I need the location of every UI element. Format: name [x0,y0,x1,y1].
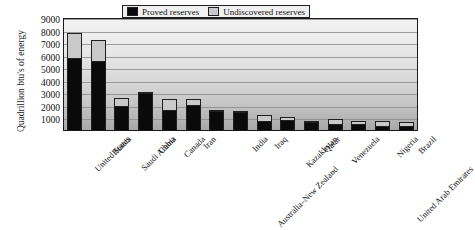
bar-iraq[interactable] [257,19,272,130]
chart-legend: Proved reserves Undiscovered reserves [122,5,310,18]
y-tick-6000: 6000 [41,54,60,62]
bar-segment-proved [280,120,295,130]
y-tick-4000: 4000 [41,79,60,87]
y-tick-7000: 7000 [41,41,60,49]
x-label-iraq: Iraq [272,134,289,151]
x-label-united-arab-emirates: United Arab Emirates [415,164,475,224]
x-label-nigeria: Nigeria [394,134,419,159]
x-axis-tick-labels: United StatesRussiaSaudi ArabiaChinaCana… [63,132,418,228]
bar-segment-proved [328,124,343,130]
y-tick-5000: 5000 [41,66,60,74]
bar-united-arab-emirates[interactable] [351,19,366,130]
bar-segment-proved [399,126,414,130]
legend-label-undiscovered: Undiscovered reserves [223,7,305,17]
legend-swatch-proved-icon [127,7,138,16]
bar-segment-proved [91,61,106,130]
legend-label-proved: Proved reserves [142,7,199,17]
bar-segment-proved [67,58,82,130]
bar-segment-undiscovered [91,40,106,61]
x-label-australia-new-zealand: Australia–New Zealand [275,164,340,229]
bar-china[interactable] [138,19,153,130]
y-tick-3000: 3000 [41,91,60,99]
bar-segment-proved [375,126,390,130]
y-axis-title: Quadrillion btu's of energy [16,6,26,156]
legend-swatch-undiscovered-icon [208,7,219,16]
bar-segment-undiscovered [162,99,177,110]
bar-united-states[interactable] [67,19,82,130]
bar-segment-proved [138,93,153,130]
legend-entry-proved: Proved reserves [127,7,199,17]
x-label-venezuela: Venezuela [349,134,381,166]
bar-segment-proved [114,106,129,130]
x-label-russia: Russia [109,134,132,157]
bar-segment-undiscovered [67,33,82,58]
bar-segment-undiscovered [114,98,129,106]
bar-canada[interactable] [162,19,177,130]
bar-segment-proved [257,121,272,130]
bar-nigeria[interactable] [375,19,390,130]
x-label-india: India [250,134,270,154]
y-tick-9000: 9000 [41,16,60,24]
bar-segment-proved [162,110,177,130]
x-label-canada: Canada [181,134,206,159]
y-axis-tick-labels: 100020003000400050006000700080009000 [32,16,60,128]
bar-kazakhstan[interactable] [280,19,295,130]
bar-segment-proved [351,124,366,130]
bar-saudi-arabia[interactable] [114,19,129,130]
bar-series-container [64,19,417,130]
bar-russia[interactable] [91,19,106,130]
bar-brazil[interactable] [399,19,414,130]
bar-qatar[interactable] [304,19,319,130]
plot-area [63,18,418,131]
bar-segment-proved [233,112,248,130]
x-label-china: China [156,134,178,156]
bar-segment-proved [209,111,224,130]
y-tick-8000: 8000 [41,29,60,37]
y-tick-2000: 2000 [41,104,60,112]
x-label-brazil: Brazil [416,134,438,156]
bar-india[interactable] [233,19,248,130]
x-label-iran: Iran [201,134,218,151]
bar-australia-new-zealand[interactable] [209,19,224,130]
legend-entry-undiscovered: Undiscovered reserves [208,7,305,17]
bar-segment-proved [304,122,319,130]
bar-segment-proved [186,105,201,130]
bar-iran[interactable] [186,19,201,130]
y-tick-1000: 1000 [41,116,60,124]
bar-venezuela[interactable] [328,19,343,130]
